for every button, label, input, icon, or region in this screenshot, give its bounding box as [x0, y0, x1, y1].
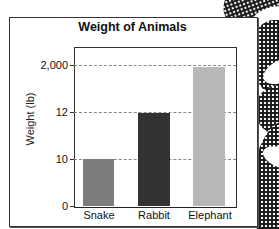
y-tick-label: 2,000: [8, 59, 68, 71]
snake-coil-gap: [259, 53, 279, 90]
y-tick-label: 10: [8, 153, 68, 165]
bar-elephant: [193, 67, 225, 206]
y-tick-mark: [70, 65, 74, 66]
x-tick-label: Snake: [69, 209, 129, 221]
chart-title: Weight of Animals: [9, 20, 256, 34]
gridline-2000: [74, 65, 236, 66]
bar-rabbit: [138, 113, 170, 206]
snake-coil-decoration: [255, 85, 279, 135]
y-tick-label: 0: [8, 200, 68, 212]
bar-snake: [83, 159, 114, 206]
y-tick-label: 12: [8, 106, 68, 118]
y-tick-mark: [70, 206, 74, 207]
snake-coil-gap: [260, 142, 279, 174]
x-tick-label: Rabbit: [124, 209, 184, 221]
y-axis-label: Weight (lb): [24, 74, 36, 164]
y-tick-mark: [70, 159, 74, 160]
x-tick-label: Elephant: [180, 209, 240, 221]
y-tick-mark: [70, 112, 74, 113]
